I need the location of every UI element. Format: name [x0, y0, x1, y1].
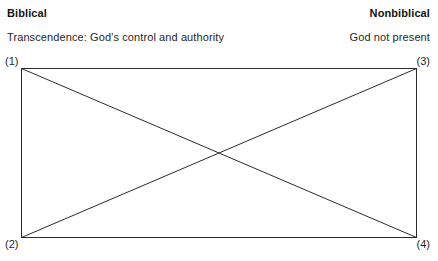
corner-label-1: (1) [5, 55, 18, 68]
diagram-svg [0, 0, 438, 261]
corner-label-2: (2) [5, 238, 18, 251]
corner-label-3: (3) [417, 55, 430, 68]
corner-label-4: (4) [417, 238, 430, 251]
diagram-page: Biblical Nonbiblical Transcendence: God’… [0, 0, 438, 261]
square-of-opposition-diagram [0, 0, 438, 261]
